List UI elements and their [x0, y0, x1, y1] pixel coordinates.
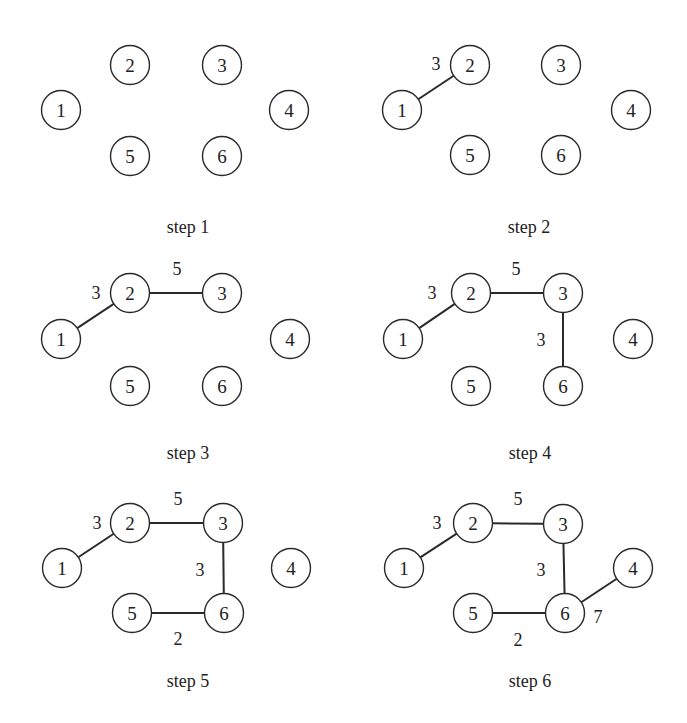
graph-node-2: 2 [452, 274, 491, 313]
node-label: 1 [56, 329, 66, 350]
graph-node-3: 3 [542, 46, 581, 85]
node-label: 1 [397, 100, 407, 121]
node-label: 6 [556, 145, 566, 166]
edge-weight-label: 2 [514, 630, 523, 650]
node-label: 5 [127, 603, 137, 624]
node-label: 2 [468, 513, 478, 534]
graph-node-2: 2 [111, 504, 150, 543]
graph-node-2: 2 [111, 274, 150, 313]
edge-weight-label: 3 [93, 513, 102, 533]
edge-3-6 [223, 542, 224, 593]
graph-node-1: 1 [385, 549, 424, 588]
graph-node-5: 5 [113, 594, 152, 633]
graph-node-6: 6 [542, 136, 581, 175]
node-label: 3 [558, 514, 568, 535]
graph-node-5: 5 [111, 137, 150, 176]
node-label: 1 [57, 558, 67, 579]
mst-steps-diagram: 123456step 13123456step 235123456step 33… [0, 0, 687, 723]
graph-node-3: 3 [204, 504, 243, 543]
graph-node-1: 1 [383, 91, 422, 130]
graph-node-4: 4 [614, 320, 653, 359]
node-label: 5 [125, 146, 135, 167]
graph-node-2: 2 [451, 46, 490, 85]
graph-node-3: 3 [203, 274, 242, 313]
node-label: 2 [465, 55, 475, 76]
node-label: 5 [125, 376, 135, 397]
step-caption: step 1 [167, 217, 210, 237]
node-label: 3 [217, 55, 227, 76]
node-label: 4 [628, 329, 638, 350]
graph-node-1: 1 [384, 320, 423, 359]
node-label: 6 [560, 603, 570, 624]
step-caption: step 2 [508, 217, 551, 237]
edge-weight-label: 3 [537, 560, 546, 580]
node-label: 6 [219, 603, 229, 624]
node-label: 1 [399, 558, 409, 579]
graph-node-4: 4 [270, 91, 309, 130]
graph-node-3: 3 [544, 274, 583, 313]
graph-node-1: 1 [42, 320, 81, 359]
graph-node-3: 3 [203, 46, 242, 85]
graph-node-2: 2 [111, 46, 150, 85]
node-label: 5 [466, 376, 476, 397]
node-label: 2 [125, 283, 135, 304]
graph-node-4: 4 [272, 549, 311, 588]
edge-weight-label: 2 [174, 629, 183, 649]
node-label: 5 [465, 145, 475, 166]
edge-3-6 [563, 543, 564, 593]
node-label: 6 [558, 376, 568, 397]
step-caption: step 4 [509, 443, 552, 463]
graph-node-4: 4 [614, 549, 653, 588]
step-caption: step 5 [167, 671, 210, 691]
node-label: 3 [218, 513, 228, 534]
graph-node-6: 6 [544, 367, 583, 406]
graph-node-5: 5 [451, 136, 490, 175]
edge-2-3 [492, 523, 543, 524]
node-label: 4 [286, 558, 296, 579]
graph-node-5: 5 [454, 594, 493, 633]
node-label: 2 [125, 513, 135, 534]
node-label: 3 [558, 283, 568, 304]
node-label: 4 [626, 100, 636, 121]
node-label: 4 [284, 100, 294, 121]
graph-node-6: 6 [546, 594, 585, 633]
step-caption: step 6 [509, 671, 552, 691]
edge-weight-label: 3 [196, 560, 205, 580]
node-label: 3 [217, 283, 227, 304]
edge-weight-label: 7 [594, 607, 603, 627]
graph-node-5: 5 [111, 367, 150, 406]
graph-node-3: 3 [544, 505, 583, 544]
edge-weight-label: 3 [432, 54, 441, 74]
node-label: 6 [217, 146, 227, 167]
node-label: 2 [125, 55, 135, 76]
edge-weight-label: 3 [537, 330, 546, 350]
node-label: 4 [628, 558, 638, 579]
edge-weight-label: 3 [433, 513, 442, 533]
node-label: 1 [398, 329, 408, 350]
graph-node-6: 6 [203, 367, 242, 406]
graph-node-4: 4 [612, 91, 651, 130]
graph-node-2: 2 [454, 504, 493, 543]
graph-node-1: 1 [43, 549, 82, 588]
edge-weight-label: 3 [428, 283, 437, 303]
graph-node-1: 1 [42, 91, 81, 130]
node-label: 6 [217, 376, 227, 397]
graph-node-6: 6 [203, 137, 242, 176]
node-label: 5 [468, 603, 478, 624]
graph-node-5: 5 [452, 367, 491, 406]
node-label: 4 [285, 329, 295, 350]
node-label: 3 [556, 55, 566, 76]
edge-weight-label: 5 [174, 489, 183, 509]
edge-weight-label: 5 [512, 259, 521, 279]
node-label: 1 [56, 100, 66, 121]
edge-weight-label: 5 [173, 259, 182, 279]
graph-node-6: 6 [205, 594, 244, 633]
node-label: 2 [466, 283, 476, 304]
step-caption: step 3 [167, 443, 210, 463]
edge-weight-label: 5 [514, 489, 523, 509]
edge-weight-label: 3 [92, 283, 101, 303]
graph-node-4: 4 [271, 320, 310, 359]
